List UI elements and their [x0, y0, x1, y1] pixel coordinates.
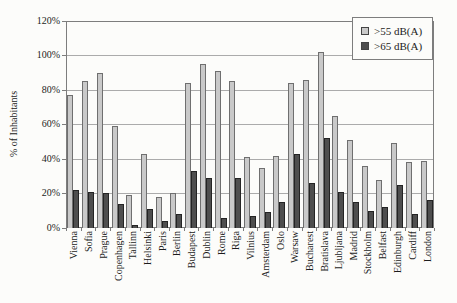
- x-tick-mark: [95, 228, 96, 231]
- bar-gt65-dublin: [206, 178, 212, 228]
- bar-gt65-sofia: [88, 192, 94, 228]
- bar-gt65-budapest: [191, 171, 197, 228]
- category-label: Paris: [157, 231, 169, 251]
- x-tick-mark: [169, 228, 170, 231]
- category-label: Oslo: [274, 231, 286, 250]
- x-tick-mark: [434, 228, 435, 231]
- bar-gt65-bucharest: [309, 183, 315, 228]
- x-tick-mark: [287, 228, 288, 231]
- x-tick-mark: [360, 228, 361, 231]
- x-tick-mark: [405, 228, 406, 231]
- y-tick-mark: [62, 90, 66, 91]
- category-label: Vienna: [68, 231, 80, 259]
- x-tick-mark: [331, 228, 332, 231]
- legend-label-gt65: >65 dB(A): [374, 40, 422, 52]
- bar-gt65-amsterdam: [265, 212, 271, 228]
- bar-gt65-rome: [221, 218, 227, 228]
- category-label: Budapest: [186, 231, 198, 268]
- bar-gt65-vienna: [73, 190, 79, 228]
- y-tick-label: 40%: [42, 153, 60, 165]
- bar-gt65-tallinn: [132, 225, 138, 228]
- x-tick-mark: [375, 228, 376, 231]
- category-label: Riga: [230, 231, 242, 250]
- x-tick-mark: [110, 228, 111, 231]
- bar-gt65-cardiff: [412, 214, 418, 228]
- y-tick-label: 100%: [37, 49, 60, 61]
- category-label: London: [422, 231, 434, 262]
- bar-gt65-belfast: [382, 207, 388, 228]
- x-tick-mark: [243, 228, 244, 231]
- bar-gt55-rome: [215, 71, 221, 228]
- bar-gt65-prague: [103, 193, 109, 228]
- bar-gt65-berlin: [176, 214, 182, 228]
- bar-gt65-vilnius: [250, 216, 256, 228]
- y-tick-mark: [62, 193, 66, 194]
- legend-item-gt65: >65 dB(A): [361, 40, 432, 52]
- x-tick-mark: [228, 228, 229, 231]
- bar-gt65-bratislava: [324, 138, 330, 228]
- category-label: Helsinki: [142, 231, 154, 265]
- bar-gt65-madrid: [353, 202, 359, 228]
- bar-gt65-london: [427, 200, 433, 228]
- y-axis-title: % of Inhabitants: [7, 54, 21, 194]
- x-tick-mark: [346, 228, 347, 231]
- x-tick-mark: [390, 228, 391, 231]
- legend: >55 dB(A) >65 dB(A): [352, 17, 433, 60]
- category-label: Dublin: [201, 231, 213, 259]
- category-label: Warsaw: [289, 231, 301, 263]
- y-tick-mark: [62, 124, 66, 125]
- x-tick-mark: [272, 228, 273, 231]
- legend-swatch-gt65-icon: [361, 42, 369, 50]
- gridline-40: [67, 159, 433, 160]
- category-label: Vilnius: [245, 231, 257, 260]
- x-tick-mark: [213, 228, 214, 231]
- category-label: Belfast: [377, 231, 389, 259]
- y-tick-mark: [62, 159, 66, 160]
- x-tick-mark: [302, 228, 303, 231]
- noise-exposure-bar-chart: % of Inhabitants >55 dB(A) >65 dB(A) 0%2…: [0, 0, 457, 303]
- category-label: Tallinn: [127, 231, 139, 259]
- y-tick-mark: [62, 55, 66, 56]
- x-tick-mark: [125, 228, 126, 231]
- x-tick-mark: [154, 228, 155, 231]
- x-tick-mark: [419, 228, 420, 231]
- y-tick-mark: [62, 21, 66, 22]
- x-tick-mark: [184, 228, 185, 231]
- bar-gt65-stockholm: [368, 211, 374, 228]
- category-label: Sofia: [83, 231, 95, 252]
- gridline-60: [67, 124, 433, 125]
- category-label: Copenhagen: [113, 231, 125, 281]
- bar-gt65-oslo: [279, 202, 285, 228]
- y-tick-label: 80%: [42, 84, 60, 96]
- legend-item-gt55: >55 dB(A): [361, 25, 432, 37]
- y-tick-label: 60%: [42, 118, 60, 130]
- bar-gt55-tallinn: [126, 195, 132, 228]
- category-label: Berlin: [171, 231, 183, 256]
- x-tick-mark: [66, 228, 67, 231]
- category-label: Bucharest: [304, 231, 316, 271]
- category-label: Madrid: [348, 231, 360, 260]
- legend-label-gt55: >55 dB(A): [374, 25, 422, 37]
- x-tick-mark: [198, 228, 199, 231]
- x-tick-mark: [81, 228, 82, 231]
- bar-gt65-paris: [162, 221, 168, 228]
- category-label: Prague: [98, 231, 110, 259]
- legend-swatch-gt55-icon: [361, 27, 369, 35]
- category-label: Stockholm: [363, 231, 375, 274]
- category-label: Rome: [216, 231, 228, 255]
- x-tick-mark: [140, 228, 141, 231]
- category-label: Amsterdam: [260, 231, 272, 278]
- bar-gt65-helsinki: [147, 209, 153, 228]
- bar-gt65-ljubljana: [338, 192, 344, 228]
- bar-gt65-riga: [235, 178, 241, 228]
- x-tick-mark: [257, 228, 258, 231]
- category-label: Bratislava: [319, 231, 331, 272]
- bar-gt65-warsaw: [294, 154, 300, 228]
- y-tick-label: 20%: [42, 187, 60, 199]
- y-tick-label: 120%: [37, 15, 60, 27]
- gridline-80: [67, 90, 433, 91]
- category-label: Ljubljana: [333, 231, 345, 269]
- category-label: Edinburgh: [392, 231, 404, 273]
- y-tick-label: 0%: [47, 222, 60, 234]
- x-tick-mark: [316, 228, 317, 231]
